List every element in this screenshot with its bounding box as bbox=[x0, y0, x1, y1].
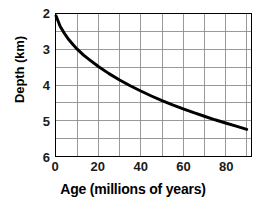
x-tick-label: 60 bbox=[176, 160, 190, 173]
y-axis-title: Depth (km) bbox=[12, 15, 27, 125]
y-tick-label: 3 bbox=[34, 43, 50, 56]
y-tick-label: 6 bbox=[34, 151, 50, 164]
plot-area bbox=[55, 13, 252, 157]
y-axis-tick-labels: 2 3 4 5 6 bbox=[34, 13, 50, 157]
y-tick-label: 2 bbox=[34, 7, 50, 20]
x-tick-label: 0 bbox=[51, 160, 58, 173]
x-tick-label: 20 bbox=[91, 160, 105, 173]
y-tick-label: 4 bbox=[34, 79, 50, 92]
x-tick-label: 40 bbox=[133, 160, 147, 173]
x-tick-label: 80 bbox=[219, 160, 233, 173]
x-axis-title: Age (millions of years) bbox=[0, 181, 266, 197]
chart-figure: Depth (km) 2 3 4 5 6 bbox=[0, 0, 266, 204]
depth-vs-age-curve bbox=[56, 14, 251, 156]
x-axis-tick-labels: 0 20 40 60 80 bbox=[55, 160, 252, 178]
y-tick-label: 5 bbox=[34, 115, 50, 128]
